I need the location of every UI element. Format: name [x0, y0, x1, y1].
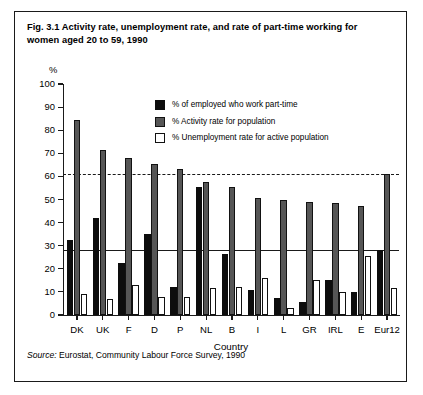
x-tick-IRL	[335, 315, 336, 320]
bar-F-part	[118, 263, 124, 315]
y-tick-label-30: 30	[31, 241, 55, 250]
bar-I-part	[248, 290, 254, 315]
bar-E-unemp	[365, 256, 371, 315]
y-axis-line	[63, 84, 64, 315]
bar-GR-unemp	[313, 280, 319, 315]
y-tick-50	[58, 199, 63, 200]
legend-item-gray: % Activity rate for population	[155, 114, 329, 131]
x-tick-D	[154, 315, 155, 320]
source-label: Source:	[27, 350, 57, 360]
bar-P-activity	[177, 169, 183, 315]
x-tick-label-Eur12: Eur12	[374, 324, 400, 335]
x-tick-label-GR: GR	[302, 324, 316, 335]
figure-panel: Fig. 3.1 Activity rate, unemployment rat…	[14, 11, 407, 382]
bar-B-unemp	[236, 287, 242, 315]
x-tick-label-IRL: IRL	[328, 324, 343, 335]
y-tick-label-10: 10	[31, 287, 55, 296]
x-tick-UK	[102, 315, 103, 320]
x-tick-label-B: B	[229, 324, 235, 335]
legend-item-white: % Unemployment rate for active populatio…	[155, 130, 329, 147]
y-tick-label-0: 0	[31, 310, 55, 319]
bar-P-unemp	[184, 297, 190, 315]
y-axis-unit-label: %	[49, 64, 57, 75]
bar-UK-activity	[100, 150, 106, 315]
x-tick-L	[283, 315, 284, 320]
bar-UK-part	[93, 218, 99, 315]
bar-Eur12-unemp	[391, 288, 397, 315]
x-tick-NL	[206, 315, 207, 320]
y-tick-label-80: 80	[31, 125, 55, 134]
y-tick-20	[58, 268, 63, 269]
bar-F-unemp	[132, 285, 138, 315]
bar-F-activity	[125, 158, 131, 315]
x-tick-label-UK: UK	[96, 324, 109, 335]
legend-swatch-black-icon	[155, 100, 165, 110]
reference-line-eur12-activity-rate	[63, 174, 399, 175]
bar-NL-activity	[203, 182, 209, 315]
x-tick-Eur12	[386, 315, 387, 320]
x-tick-I	[257, 315, 258, 320]
bar-L-part	[274, 298, 280, 315]
legend-swatch-white-icon	[155, 133, 165, 143]
bar-E-part	[351, 292, 357, 315]
y-tick-label-60: 60	[31, 171, 55, 180]
y-tick-60	[58, 176, 63, 177]
y-tick-label-40: 40	[31, 218, 55, 227]
chart-legend: % of employed who work part-time% Activi…	[155, 97, 329, 147]
bar-P-part	[170, 287, 176, 315]
source-text: Eurostat, Community Labour Force Survey,…	[59, 350, 245, 360]
bar-IRL-activity	[332, 203, 338, 315]
bar-D-activity	[151, 164, 157, 315]
bar-IRL-part	[325, 280, 331, 315]
bar-GR-activity	[306, 202, 312, 315]
x-tick-E	[361, 315, 362, 320]
legend-item-black: % of employed who work part-time	[155, 97, 329, 114]
x-tick-label-DK: DK	[70, 324, 83, 335]
y-tick-90	[58, 107, 63, 108]
y-tick-80	[58, 130, 63, 131]
x-tick-F	[128, 315, 129, 320]
y-tick-10	[58, 291, 63, 292]
x-tick-DK	[76, 315, 77, 320]
y-tick-0	[58, 314, 63, 315]
legend-label: % Activity rate for population	[172, 117, 275, 127]
bar-Eur12-part	[377, 250, 383, 315]
bar-D-unemp	[158, 297, 164, 315]
y-tick-label-50: 50	[31, 195, 55, 204]
bar-NL-unemp	[210, 288, 216, 315]
bar-DK-activity	[74, 120, 80, 315]
x-tick-label-D: D	[151, 324, 158, 335]
x-tick-label-E: E	[358, 324, 364, 335]
bar-L-activity	[280, 200, 286, 316]
bar-UK-unemp	[107, 299, 113, 315]
y-tick-40	[58, 222, 63, 223]
figure-source: Source: Eurostat, Community Labour Force…	[27, 350, 245, 361]
bar-L-unemp	[287, 308, 293, 315]
x-tick-label-F: F	[126, 324, 132, 335]
bar-B-part	[222, 254, 228, 315]
bar-Eur12-activity	[384, 174, 390, 315]
bar-NL-part	[196, 187, 202, 315]
x-tick-label-L: L	[281, 324, 286, 335]
y-tick-label-70: 70	[31, 148, 55, 157]
x-tick-P	[180, 315, 181, 320]
x-tick-label-NL: NL	[200, 324, 212, 335]
figure-caption: Fig. 3.1 Activity rate, unemployment rat…	[27, 21, 389, 47]
bar-DK-unemp	[81, 294, 87, 315]
x-tick-GR	[309, 315, 310, 320]
bar-E-activity	[358, 206, 364, 315]
x-tick-label-P: P	[177, 324, 183, 335]
x-tick-B	[231, 315, 232, 320]
bar-GR-part	[299, 302, 305, 315]
legend-label: % Unemployment rate for active populatio…	[172, 133, 329, 143]
bar-I-unemp	[262, 278, 268, 315]
bar-D-part	[144, 234, 150, 315]
y-tick-100	[58, 83, 63, 84]
legend-label: % of employed who work part-time	[172, 100, 298, 110]
legend-swatch-gray-icon	[155, 117, 165, 127]
x-tick-label-I: I	[257, 324, 260, 335]
bar-B-activity	[229, 187, 235, 315]
y-tick-label-100: 100	[31, 79, 55, 88]
y-tick-30	[58, 245, 63, 246]
y-tick-label-90: 90	[31, 102, 55, 111]
